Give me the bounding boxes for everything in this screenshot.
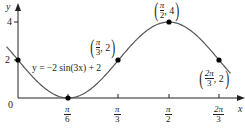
y-axis-label: y bbox=[6, 2, 10, 12]
x-axis-arrow-icon bbox=[237, 95, 245, 101]
x-axis-label: x bbox=[238, 104, 242, 114]
point-pi6-0 bbox=[65, 95, 70, 100]
y-axis-arrow-icon bbox=[15, 3, 21, 11]
y-tick-2: 2 bbox=[5, 55, 10, 65]
x-tick-pi6: π6 bbox=[64, 105, 71, 124]
point-2pi3-2 bbox=[216, 57, 221, 62]
point-label-pi2-4: (π2, 4) bbox=[153, 0, 181, 20]
point-0-2 bbox=[15, 57, 20, 62]
y-tick-4: 4 bbox=[7, 17, 12, 27]
chart: y x 4 2 0 y = −2 sin(3x) + 2 π6 π3 π2 2π… bbox=[0, 0, 245, 128]
point-label-2pi3-2: (2π3, 2) bbox=[198, 68, 230, 88]
point-label-pi3-2: (π3, 2) bbox=[89, 37, 117, 57]
x-tick-2pi3: 2π3 bbox=[213, 105, 224, 124]
origin-label: 0 bbox=[8, 100, 13, 110]
point-pi2-4 bbox=[166, 19, 171, 24]
equation-label: y = −2 sin(3x) + 2 bbox=[32, 63, 101, 73]
point-pi3-2 bbox=[115, 57, 120, 62]
x-tick-pi3: π3 bbox=[114, 105, 121, 124]
x-tick-pi2: π2 bbox=[165, 105, 172, 124]
